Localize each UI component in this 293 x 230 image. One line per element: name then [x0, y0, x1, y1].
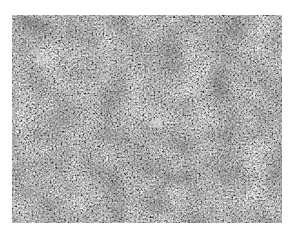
micrograph-texture — [12, 15, 282, 223]
light-patch — [151, 118, 163, 128]
light-patch — [35, 55, 49, 65]
micrograph-image — [12, 15, 282, 223]
light-patch — [99, 74, 109, 82]
